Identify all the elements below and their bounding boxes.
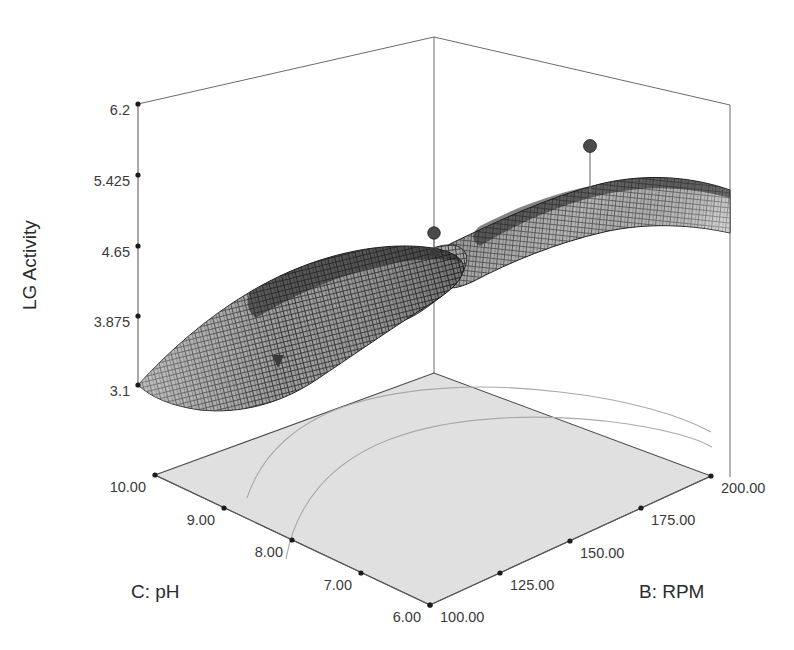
z-axis-title: LG Activity bbox=[19, 220, 40, 310]
z-axis-tick-dot bbox=[135, 101, 140, 106]
z-axis-tick-dot bbox=[135, 313, 140, 318]
y-axis-tick-dot bbox=[638, 505, 643, 510]
z-axis-tick-label: 5.425 bbox=[94, 173, 130, 189]
design-point-2 bbox=[584, 140, 597, 192]
x-axis-tick-label: 8.00 bbox=[255, 544, 283, 560]
surface-plot-root: 6.2 5.425 4.65 3.875 3.1 LG Activity 10.… bbox=[0, 0, 794, 650]
surface-plot-svg: 6.2 5.425 4.65 3.875 3.1 LG Activity 10.… bbox=[0, 0, 794, 650]
x-axis-tick-dot bbox=[358, 570, 363, 575]
y-axis-tick-dot bbox=[567, 538, 572, 543]
design-point-1-ball bbox=[428, 227, 440, 239]
z-axis-tick-label: 3.1 bbox=[110, 383, 130, 399]
x-axis-tick-label: 7.00 bbox=[324, 577, 352, 593]
x-axis-tick-label: 10.00 bbox=[110, 479, 146, 495]
x-axis-tick-label: 9.00 bbox=[187, 512, 215, 528]
z-axis-tick-label: 3.875 bbox=[94, 314, 130, 330]
z-axis: 6.2 5.425 4.65 3.875 3.1 LG Activity bbox=[19, 101, 141, 399]
y-axis-tick-label: 150.00 bbox=[580, 545, 624, 561]
y-axis-tick-dot bbox=[497, 570, 502, 575]
x-axis-tick-dot bbox=[221, 505, 226, 510]
z-axis-tick-dot bbox=[135, 243, 140, 248]
design-point-2-ball bbox=[584, 140, 597, 153]
z-axis-tick-label: 6.2 bbox=[110, 102, 130, 118]
x-axis-tick-label: 6.00 bbox=[393, 609, 421, 625]
z-axis-tick-label: 4.65 bbox=[102, 244, 130, 260]
x-axis-tick-dot bbox=[289, 537, 294, 542]
z-axis-tick-dot bbox=[135, 382, 140, 387]
y-axis-tick-label: 175.00 bbox=[651, 512, 695, 528]
design-point-1-foot bbox=[430, 248, 439, 256]
box-top-left-edge bbox=[138, 37, 434, 104]
x-axis-title: C: pH bbox=[131, 581, 180, 602]
y-axis-tick-label: 125.00 bbox=[510, 577, 554, 593]
y-axis-tick-dot bbox=[708, 473, 713, 478]
box-top-right-edge bbox=[434, 37, 730, 105]
y-axis-title: B: RPM bbox=[639, 581, 704, 602]
y-axis-tick-dot bbox=[427, 602, 432, 607]
y-axis-tick-label: 200.00 bbox=[721, 480, 765, 496]
z-axis-tick-dot bbox=[135, 172, 140, 177]
y-axis-tick-label: 100.00 bbox=[440, 609, 484, 625]
x-axis-tick-dot bbox=[152, 472, 157, 477]
